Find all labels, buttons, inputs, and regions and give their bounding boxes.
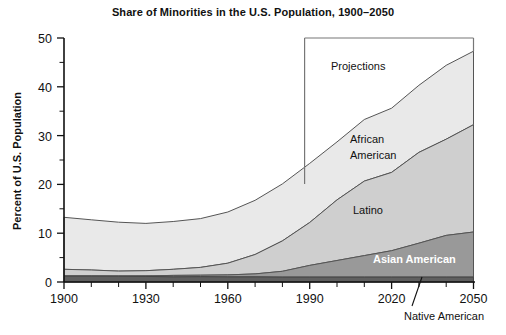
x-tick-label: 1990 [296,292,324,306]
chart-plot-area: 50 40 30 20 10 0 1900 1930 1960 1990 202… [0,0,506,335]
x-tick-label: 2020 [378,292,406,306]
series-label-african-american-line2: American [350,149,396,161]
x-tick-label: 2050 [460,292,488,306]
x-tick-label: 1930 [132,292,160,306]
series-label-asian-american: Asian American [373,253,456,265]
y-tick-label: 50 [38,32,52,46]
y-tick-label: 30 [38,130,52,144]
y-tick-label: 40 [38,81,52,95]
y-tick-label: 0 [45,276,52,290]
chart-figure: Share of Minorities in the U.S. Populati… [0,0,506,335]
y-tick-label: 20 [38,178,52,192]
series-area-native-american [64,276,474,282]
x-tick-label: 1960 [214,292,242,306]
annotation-projections-label: Projections [331,60,386,72]
series-label-native-american: Native American [404,310,484,322]
series-label-african-american-line1: African [350,133,384,145]
y-tick-labels: 50 40 30 20 10 0 [38,32,52,290]
x-tick-labels: 1900 1930 1960 1990 2020 2050 [50,292,487,306]
x-tick-label: 1900 [50,292,78,306]
series-label-latino: Latino [353,204,383,216]
y-tick-label: 10 [38,227,52,241]
